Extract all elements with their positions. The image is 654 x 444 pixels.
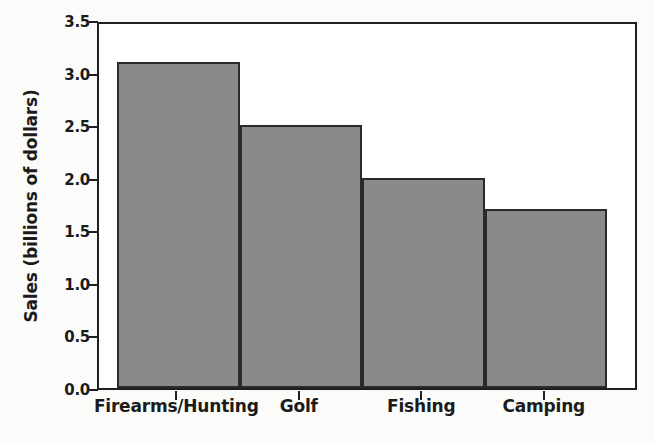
y-axis-tick-mark xyxy=(89,21,98,23)
bar xyxy=(485,209,608,388)
bar xyxy=(362,178,485,388)
y-axis-tick-label: 0.5 xyxy=(44,328,90,346)
y-axis-tick-label: 3.0 xyxy=(44,66,90,84)
y-axis-tick-mark xyxy=(89,336,98,338)
y-axis-tick-label-group: 0.00.51.01.52.02.53.03.5 xyxy=(40,0,90,444)
y-axis-tick-label: 2.5 xyxy=(44,118,90,136)
y-axis-tick-label: 1.5 xyxy=(44,223,90,241)
y-axis-tick-mark xyxy=(89,284,98,286)
x-axis-tick-label: Fishing xyxy=(387,396,455,416)
y-axis-tick-mark xyxy=(89,389,98,391)
bar xyxy=(117,62,240,388)
x-axis-tick-label: Firearms/Hunting xyxy=(94,396,259,416)
y-axis-tick-mark xyxy=(89,74,98,76)
x-axis-tick-label: Golf xyxy=(280,396,318,416)
y-axis-tick-label: 2.0 xyxy=(44,171,90,189)
y-axis-tick-mark xyxy=(89,179,98,181)
y-axis-tick-mark xyxy=(89,231,98,233)
bar xyxy=(240,125,363,388)
bars-layer xyxy=(99,24,635,388)
bar-chart-figure: Sales (billions of dollars) 0.00.51.01.5… xyxy=(0,0,654,444)
y-axis-tick-label: 1.0 xyxy=(44,276,90,294)
y-axis-tick-label: 0.0 xyxy=(44,381,90,399)
y-axis-tick-mark xyxy=(89,126,98,128)
x-axis-tick-label: Camping xyxy=(502,396,585,416)
y-axis-tick-label: 3.5 xyxy=(44,13,90,31)
plot-area xyxy=(97,22,637,390)
